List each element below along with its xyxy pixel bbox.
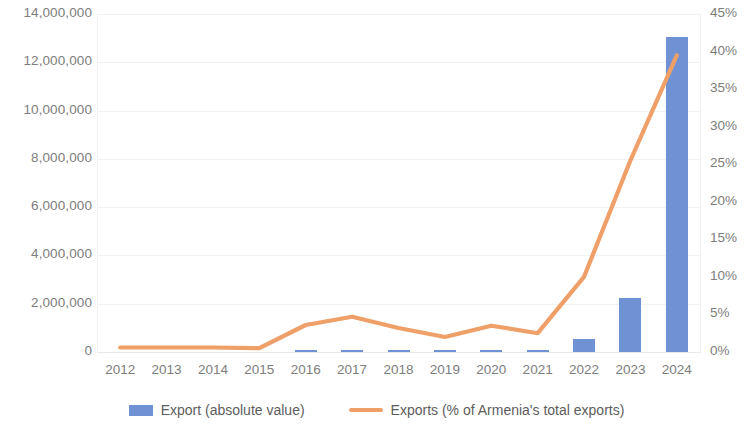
bar-2024 <box>666 37 688 352</box>
bar-2022 <box>573 339 595 352</box>
legend-item-export-absolute[interactable]: Export (absolute value) <box>129 402 305 418</box>
gridline <box>97 207 700 208</box>
right-axis-line <box>700 14 701 352</box>
x-axis-tick-2016: 2016 <box>291 362 321 377</box>
x-axis-tick-2017: 2017 <box>337 362 367 377</box>
chart-container: 02,000,0004,000,0006,000,0008,000,00010,… <box>0 0 753 425</box>
x-axis-tick-2013: 2013 <box>152 362 182 377</box>
y-axis-left-tick: 12,000,000 <box>6 53 92 68</box>
plot-area <box>97 14 700 352</box>
gridline <box>97 14 700 15</box>
y-axis-right-tick: 5% <box>710 305 753 320</box>
y-axis-left-tick: 6,000,000 <box>6 198 92 213</box>
y-axis-left-tick: 4,000,000 <box>6 246 92 261</box>
line-swatch-icon <box>349 408 383 412</box>
y-axis-left-tick: 0 <box>6 343 92 358</box>
y-axis-left-tick: 8,000,000 <box>6 150 92 165</box>
y-axis-right-tick: 30% <box>710 118 753 133</box>
legend-item-exports-percent[interactable]: Exports (% of Armenia's total exports) <box>349 402 625 418</box>
bar-2023 <box>619 298 641 352</box>
y-axis-left-tick: 14,000,000 <box>6 5 92 20</box>
gridline <box>97 304 700 305</box>
x-axis-tick-2014: 2014 <box>198 362 228 377</box>
x-axis-tick-2020: 2020 <box>476 362 506 377</box>
x-axis-tick-2023: 2023 <box>615 362 645 377</box>
gridline <box>97 255 700 256</box>
x-axis-tick-2018: 2018 <box>383 362 413 377</box>
gridline <box>97 62 700 63</box>
y-axis-right-tick: 10% <box>710 268 753 283</box>
x-axis-tick-2015: 2015 <box>244 362 274 377</box>
x-axis-tick-2024: 2024 <box>662 362 692 377</box>
bar-swatch-icon <box>129 405 153 416</box>
y-axis-right-tick: 40% <box>710 43 753 58</box>
y-axis-right: 0%5%10%15%20%25%30%35%40%45% <box>710 0 753 425</box>
chart-legend: Export (absolute value) Exports (% of Ar… <box>0 398 753 422</box>
y-axis-left-tick: 10,000,000 <box>6 102 92 117</box>
y-axis-right-tick: 25% <box>710 155 753 170</box>
gridline <box>97 159 700 160</box>
x-axis: 2012201320142015201620172018201920202021… <box>97 362 700 384</box>
x-axis-tick-2022: 2022 <box>569 362 599 377</box>
y-axis-left: 02,000,0004,000,0006,000,0008,000,00010,… <box>0 0 92 425</box>
x-axis-tick-2012: 2012 <box>105 362 135 377</box>
y-axis-right-tick: 15% <box>710 230 753 245</box>
y-axis-left-tick: 2,000,000 <box>6 295 92 310</box>
y-axis-right-tick: 20% <box>710 193 753 208</box>
y-axis-right-tick: 45% <box>710 5 753 20</box>
x-axis-baseline <box>97 352 701 353</box>
x-axis-tick-2019: 2019 <box>430 362 460 377</box>
y-axis-right-tick: 35% <box>710 80 753 95</box>
legend-item-label: Export (absolute value) <box>161 402 305 418</box>
y-axis-right-tick: 0% <box>710 343 753 358</box>
legend-item-label: Exports (% of Armenia's total exports) <box>391 402 625 418</box>
gridline <box>97 111 700 112</box>
x-axis-tick-2021: 2021 <box>523 362 553 377</box>
